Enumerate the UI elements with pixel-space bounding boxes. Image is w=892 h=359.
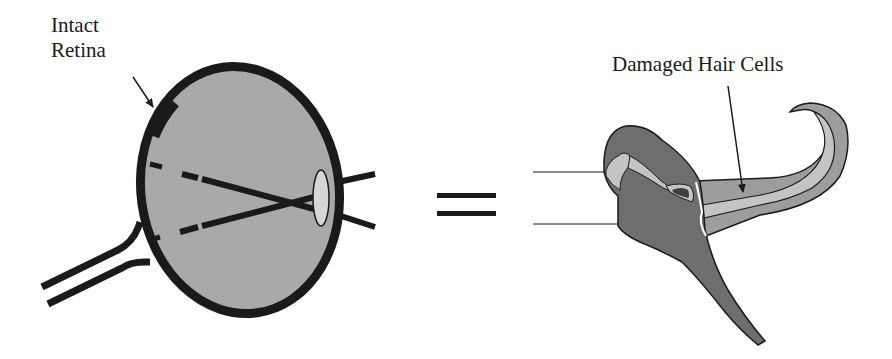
eye-illustration (42, 53, 375, 326)
retina-pointer-arrow (133, 77, 153, 107)
damaged-hair-cells-label: Damaged Hair Cells (612, 52, 783, 77)
cochlea-illustration (533, 86, 848, 345)
equals-sign (437, 193, 496, 216)
optic-nerve (42, 222, 150, 304)
hair-cells-pointer-arrow (728, 86, 743, 192)
diagram-canvas: Intact Retina Damaged Hair Cells (0, 0, 892, 359)
intact-retina-label: Intact Retina (51, 13, 106, 63)
lens (313, 170, 329, 226)
intact-retina-label-line1: Intact (51, 13, 106, 38)
intact-retina-label-line2: Retina (51, 38, 106, 63)
